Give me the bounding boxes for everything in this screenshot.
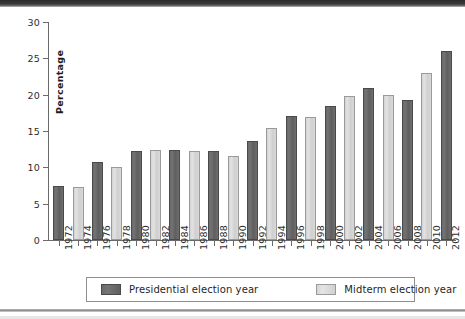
bar-slot	[421, 22, 432, 240]
bar-2006	[383, 95, 394, 240]
bar-1994	[266, 128, 277, 240]
y-axis-tick	[43, 204, 48, 205]
x-axis-tick	[214, 241, 215, 246]
x-axis-tick	[388, 241, 389, 246]
bar-slot	[73, 22, 84, 240]
bar-slot	[111, 22, 122, 240]
bar-slot	[169, 22, 180, 240]
y-axis-tick-label: 5	[34, 198, 40, 209]
bar-slot	[383, 22, 394, 240]
bar-2010	[421, 73, 432, 240]
bar-slot	[189, 22, 200, 240]
scan-edge-bottom	[0, 309, 465, 312]
x-axis-tick	[408, 241, 409, 246]
y-axis-tick	[43, 95, 48, 96]
x-axis-tick	[59, 241, 60, 246]
legend-label-presidential: Presidential election year	[129, 284, 258, 295]
y-axis-tick	[43, 131, 48, 132]
bar-slot	[92, 22, 103, 240]
y-axis-tick	[43, 240, 48, 241]
bar-slot	[402, 22, 413, 240]
bar-slot	[266, 22, 277, 240]
y-axis-tick-label: 10	[28, 162, 41, 173]
x-axis-tick	[194, 241, 195, 246]
y-axis-tick-label: 0	[34, 235, 40, 246]
bar-slot	[305, 22, 316, 240]
x-axis-tick	[349, 241, 350, 246]
bar-slot	[53, 22, 64, 240]
y-axis-tick-label: 20	[28, 89, 41, 100]
x-axis-tick	[117, 241, 118, 246]
y-axis-tick	[43, 22, 48, 23]
bar-2004	[363, 88, 374, 240]
bar-slot	[247, 22, 258, 240]
y-axis-tick	[43, 167, 48, 168]
bar-slot	[228, 22, 239, 240]
x-axis-tick	[427, 241, 428, 246]
bar-1998	[305, 117, 316, 240]
legend-item-presidential: Presidential election year	[101, 284, 258, 295]
x-axis-tick	[272, 241, 273, 246]
x-axis-tick	[291, 241, 292, 246]
bar-2008	[402, 100, 413, 240]
bar-slot	[344, 22, 355, 240]
bar-slot	[441, 22, 452, 240]
bar-slot	[131, 22, 142, 240]
legend-item-midterm: Midterm election year	[316, 284, 456, 295]
x-axis-tick	[330, 241, 331, 246]
legend-swatch-midterm-icon	[316, 284, 336, 295]
bar-1996	[286, 116, 297, 240]
x-axis-tick-label: 2012	[450, 225, 461, 250]
y-axis-tick	[43, 58, 48, 59]
bar-slot	[325, 22, 336, 240]
bar-slot	[363, 22, 374, 240]
x-axis-tick	[175, 241, 176, 246]
legend-swatch-presidential-icon	[101, 284, 121, 295]
chart-legend: Presidential election year Midterm elect…	[86, 277, 415, 302]
x-axis-tick	[233, 241, 234, 246]
x-axis-tick	[156, 241, 157, 246]
x-axis-tick	[136, 241, 137, 246]
x-axis-tick	[253, 241, 254, 246]
bar-slot	[208, 22, 219, 240]
bar-2012	[441, 51, 452, 240]
x-axis-tick	[97, 241, 98, 246]
x-axis-tick	[311, 241, 312, 246]
bar-slot	[150, 22, 161, 240]
x-axis-tick	[369, 241, 370, 246]
y-axis-tick-label: 15	[28, 126, 41, 137]
y-axis-tick-label: 25	[28, 53, 41, 64]
bar-slot	[286, 22, 297, 240]
scan-edge-top	[0, 0, 465, 7]
y-axis-tick-label: 30	[28, 17, 41, 28]
bar-series-container: 1972197419761978198019821984198619881990…	[49, 22, 456, 240]
bar-2000	[325, 106, 336, 240]
bar-2002	[344, 96, 355, 240]
legend-label-midterm: Midterm election year	[344, 284, 456, 295]
bar-chart-plot-area: Percentage 051015202530 1972197419761978…	[48, 22, 456, 241]
x-axis-tick	[446, 241, 447, 246]
x-axis-tick	[78, 241, 79, 246]
